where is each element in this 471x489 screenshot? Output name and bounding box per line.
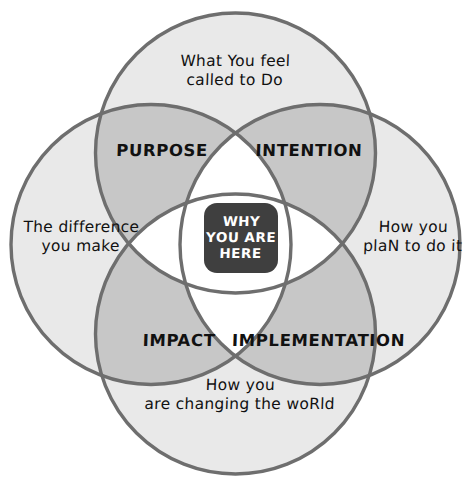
outer-label-top: What You feel called to Do xyxy=(134,52,335,90)
quadrant-label-impact: IMPACT xyxy=(124,331,235,351)
center-badge: WHY YOU ARE HERE xyxy=(204,203,278,273)
outer-label-right: How you plaN to do it xyxy=(354,218,471,256)
outer-label-left: The difference you make xyxy=(5,218,156,256)
quadrant-label-intention: INTENTION xyxy=(243,141,376,161)
outer-label-bottom: How you are changing the woRld xyxy=(124,376,355,414)
quadrant-label-implementation: IMPLEMENTATION xyxy=(232,331,393,351)
center-badge-label: WHY YOU ARE HERE xyxy=(205,214,277,262)
quadrant-label-purpose: PURPOSE xyxy=(98,141,227,161)
venn-diagram: What You feel called to Do The differenc… xyxy=(0,0,471,489)
